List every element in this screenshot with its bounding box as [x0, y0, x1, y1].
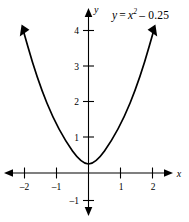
equation-y-symbol: y — [112, 9, 117, 21]
y-axis-bottom-arrowhead — [85, 207, 93, 216]
y-tick-labels: 4 3 2 1 –1 — [69, 26, 80, 206]
x-tick-label-neg2: –2 — [19, 182, 30, 192]
x-tick-label-pos2: 2 — [151, 182, 156, 192]
y-tick-label-2: 2 — [74, 97, 79, 107]
x-axis-label: x — [176, 168, 182, 179]
y-axis-top-arrowhead — [85, 8, 93, 17]
plot-canvas: –2 –1 1 2 4 3 2 1 –1 y x — [0, 0, 189, 222]
x-tick-labels: –2 –1 1 2 — [19, 182, 156, 192]
x-axis-right-arrowhead — [164, 169, 173, 177]
y-tick-label-neg1: –1 — [69, 196, 80, 206]
y-tick-label-4: 4 — [74, 26, 79, 36]
y-tick-label-3: 3 — [74, 62, 79, 72]
equation-constant-term: – 0.25 — [139, 9, 169, 21]
equation-exponent: 2 — [133, 7, 137, 16]
y-axis-label: y — [93, 4, 99, 15]
x-axis-left-arrowhead — [4, 169, 13, 177]
x-tick-label-pos1: 1 — [119, 182, 124, 192]
y-axis-group — [85, 8, 93, 216]
graph-figure: –2 –1 1 2 4 3 2 1 –1 y x y=x2– 0.25 — [0, 0, 189, 222]
x-tick-label-neg1: –1 — [51, 182, 62, 192]
equation-annotation: y=x2– 0.25 — [112, 9, 169, 21]
equation-equals-sign: = — [119, 9, 126, 21]
y-tick-label-1: 1 — [74, 133, 79, 143]
